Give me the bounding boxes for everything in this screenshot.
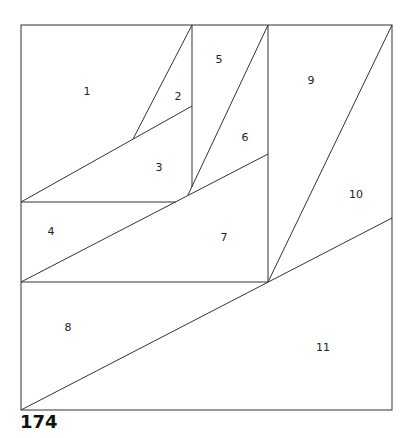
piece-labels: 1234567891011 — [48, 53, 364, 354]
piece-label-5: 5 — [216, 53, 223, 66]
foundation-piecing-diagram: 1234567891011 — [0, 0, 415, 438]
pattern-number: 174 — [20, 413, 58, 431]
piece-label-11: 11 — [316, 341, 330, 354]
seam-line-seg-1-2 — [133, 25, 192, 139]
seam-line-seg-1-3 — [21, 106, 192, 202]
piece-label-1: 1 — [84, 85, 91, 98]
piece-label-4: 4 — [48, 225, 55, 238]
piece-label-7: 7 — [221, 231, 228, 244]
seam-line-seg-8-11 — [21, 218, 392, 410]
piece-label-3: 3 — [156, 161, 163, 174]
seam-line-seg-9-10 — [268, 25, 392, 282]
piece-label-6: 6 — [242, 131, 249, 144]
seam-line-seg-4-7 — [21, 154, 268, 282]
piece-label-10: 10 — [349, 188, 363, 201]
piece-label-2: 2 — [175, 90, 182, 103]
piece-label-9: 9 — [308, 74, 315, 87]
block-outline — [21, 25, 392, 410]
seam-lines — [21, 25, 392, 410]
seam-line-seg-5-6 — [188, 25, 268, 195]
piece-label-8: 8 — [65, 321, 72, 334]
